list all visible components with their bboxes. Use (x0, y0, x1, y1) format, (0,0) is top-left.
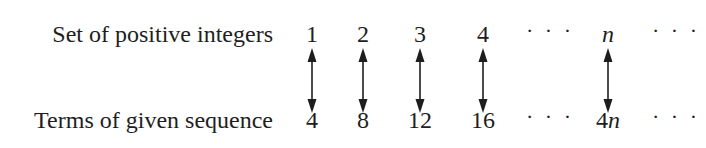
double-arrow-icon (308, 48, 317, 113)
double-arrow-icon (359, 48, 368, 113)
double-arrow-icon (416, 48, 425, 113)
double-arrow-icon (479, 48, 488, 113)
arrows-layer (0, 0, 706, 148)
double-arrow-icon (604, 48, 613, 113)
